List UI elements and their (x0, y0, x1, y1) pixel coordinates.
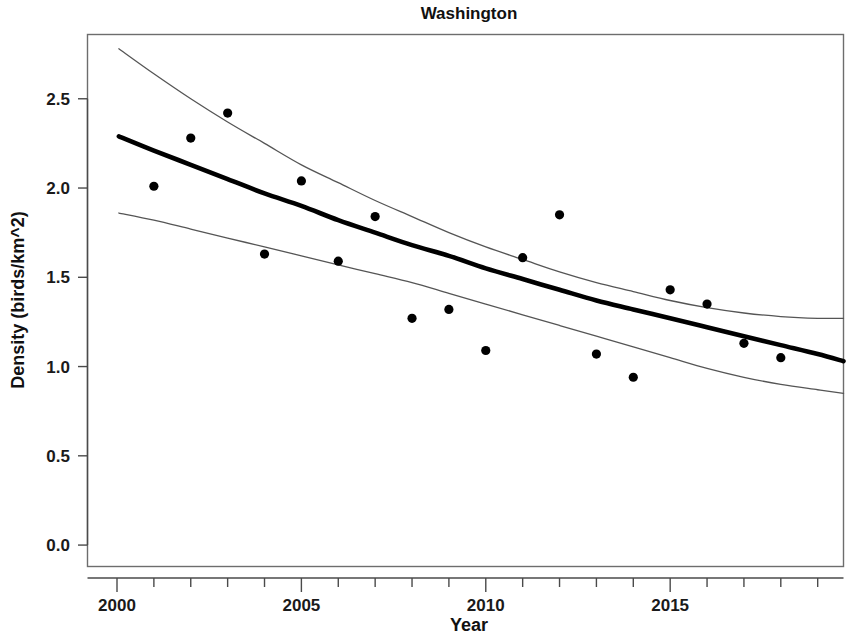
data-point (407, 314, 416, 323)
y-tick-label: 0.0 (46, 536, 70, 555)
data-point (444, 305, 453, 314)
data-point (592, 349, 601, 358)
x-axis-title: Year (450, 615, 488, 635)
x-tick-label: 2015 (651, 596, 689, 615)
y-tick-label: 2.5 (46, 90, 70, 109)
y-tick-label: 1.5 (46, 268, 70, 287)
x-tick-label: 2005 (282, 596, 320, 615)
data-point (481, 346, 490, 355)
y-tick-label: 1.0 (46, 358, 70, 377)
chart-canvas: Washington 0.00.51.01.52.02.5 2000200520… (0, 0, 854, 638)
data-point (371, 212, 380, 221)
y-tick-label: 0.5 (46, 447, 70, 466)
data-point (260, 249, 269, 258)
y-axis-title: Density (birds/km^2) (8, 211, 28, 389)
x-tick-label: 2010 (467, 596, 505, 615)
data-point (334, 257, 343, 266)
data-point (702, 299, 711, 308)
figure-background (0, 0, 854, 638)
data-point (223, 108, 232, 117)
data-point (739, 339, 748, 348)
chart-title: Washington (421, 4, 518, 23)
chart-figure: Washington 0.00.51.01.52.02.5 2000200520… (0, 0, 854, 638)
data-point (666, 285, 675, 294)
data-point (149, 182, 158, 191)
data-point (297, 176, 306, 185)
x-tick-label: 2000 (98, 596, 136, 615)
data-point (555, 210, 564, 219)
y-tick-label: 2.0 (46, 179, 70, 198)
data-point (629, 373, 638, 382)
data-point (776, 353, 785, 362)
data-point (186, 133, 195, 142)
data-point (518, 253, 527, 262)
